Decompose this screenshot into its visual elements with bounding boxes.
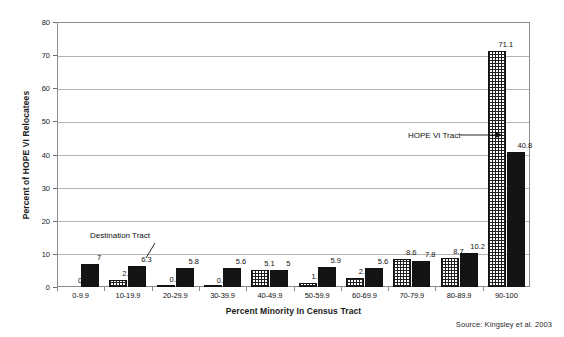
gridline: [58, 56, 529, 57]
y-tick-label: 60: [20, 84, 50, 93]
plot-area: [57, 22, 530, 287]
y-tick-label: 70: [20, 51, 50, 60]
y-tick-label: 20: [20, 216, 50, 225]
x-tick-label: 90-100: [476, 291, 536, 300]
y-tick-label: 0: [20, 283, 50, 292]
gridline: [58, 188, 529, 189]
gridline: [58, 89, 529, 90]
gridline: [58, 221, 529, 222]
annotation-destination-tract: Destination Tract: [90, 231, 150, 240]
gridline: [58, 122, 529, 123]
y-tick-label: 50: [20, 117, 50, 126]
y-tick-label: 10: [20, 249, 50, 258]
gridline: [58, 155, 529, 156]
x-axis-label: Percent Minority In Census Tract: [57, 306, 530, 316]
annotation-hope-vi-tract: HOPE VI Tract: [408, 131, 460, 140]
y-tick-label: 80: [20, 18, 50, 27]
chart-figure: Percent of HOPE VI Relocatees 0102030405…: [0, 0, 564, 337]
y-tick-label: 40: [20, 150, 50, 159]
source-note: Source: Kingsley et al. 2003: [456, 320, 552, 329]
y-tick-label: 30: [20, 183, 50, 192]
gridline: [58, 254, 529, 255]
